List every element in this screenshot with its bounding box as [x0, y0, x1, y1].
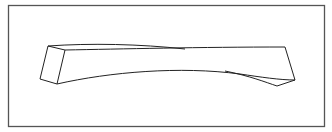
beam-bottom-front-edge [57, 70, 295, 84]
twisted-beam [40, 44, 295, 86]
beam-right-end-edge [285, 47, 295, 80]
beam-bottom-back-edge [225, 71, 295, 86]
figure-canvas [0, 0, 332, 132]
beam-left-end-face [40, 46, 65, 84]
figure-frame [9, 6, 325, 127]
